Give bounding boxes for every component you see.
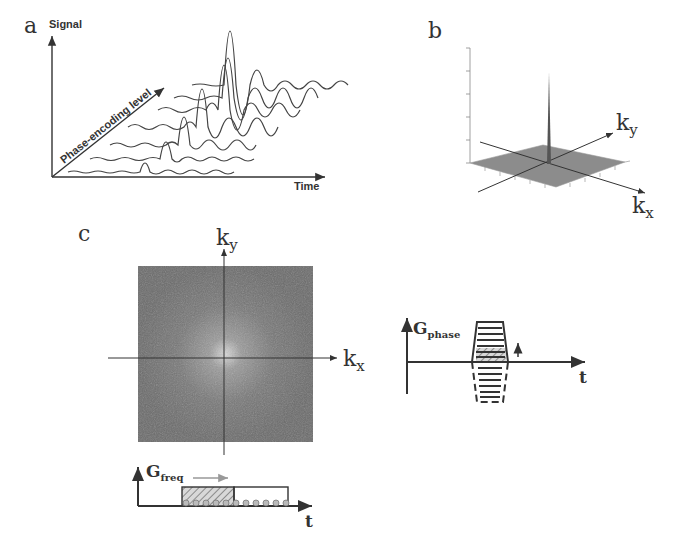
gfreq-label: Gfreq bbox=[146, 461, 183, 483]
gfreq-readout-lobe bbox=[234, 487, 288, 506]
signal-axis-label: Signal bbox=[49, 18, 82, 30]
panel-b: b ky kx bbox=[428, 18, 654, 222]
echo-7 bbox=[192, 31, 348, 115]
panel-a: a Signal Time Phase-encoding level bbox=[24, 13, 348, 192]
phase-encoding-axis bbox=[52, 88, 164, 177]
panel-c: c ky kx Gfreq t Gphase bbox=[78, 221, 587, 531]
gfreq-diagram: Gfreq t bbox=[138, 461, 313, 531]
echo-5 bbox=[158, 65, 300, 130]
dc-peak bbox=[547, 72, 551, 164]
gfreq-t-label: t bbox=[305, 511, 313, 531]
echo-1 bbox=[68, 163, 234, 174]
gphase-hatched-step bbox=[476, 348, 506, 362]
gphase-diagram: Gphase t bbox=[407, 318, 587, 402]
panel-a-label: a bbox=[24, 13, 37, 38]
panel-c-label: c bbox=[78, 221, 90, 246]
gphase-t-label: t bbox=[579, 367, 587, 387]
kx-label-c: kx bbox=[343, 346, 365, 375]
gphase-levels-positive bbox=[476, 328, 505, 357]
z-axis-ticks bbox=[466, 48, 470, 163]
panel-b-label: b bbox=[428, 18, 442, 43]
ky-label: ky bbox=[616, 110, 638, 139]
gphase-levels-negative bbox=[478, 368, 502, 397]
time-axis-label: Time bbox=[294, 180, 319, 192]
echo-traces bbox=[68, 31, 348, 174]
kspace-noise bbox=[138, 266, 313, 442]
kx-label: kx bbox=[632, 193, 654, 222]
ky-label-c: ky bbox=[216, 225, 238, 254]
gphase-label: Gphase bbox=[413, 318, 460, 340]
figure-canvas: a Signal Time Phase-encoding level b bbox=[0, 0, 676, 540]
